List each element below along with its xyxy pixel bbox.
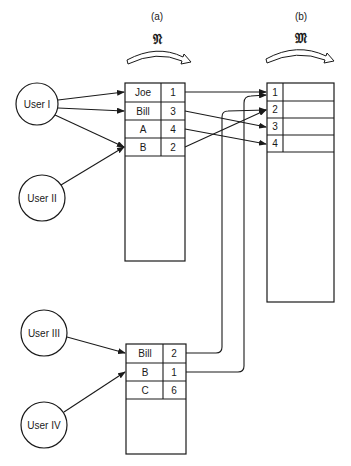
index-cell: 2 [170,142,176,153]
mapping-edges [185,92,266,372]
curved-arrow-icon [266,50,334,63]
user-edges [55,92,125,412]
user-node-4: User IV [21,402,67,448]
object-index-cell: 2 [272,104,278,115]
object-index-cell: 1 [272,87,278,98]
name-cell: Joe [135,87,152,98]
user-label: User III [28,328,60,339]
object-table: 1 2 3 4 [267,83,334,302]
mapping-b-header: (b) 𝔐 [266,11,334,63]
index-cell: 6 [171,385,177,396]
user-label: User II [27,193,56,204]
user-node-2: User II [19,175,65,221]
mapping-a-label: (a) [151,11,163,22]
index-cell: 2 [171,348,177,359]
name-table-upper: Joe 1 Bill 3 A 4 B 2 [125,83,185,261]
user-node-3: User III [21,310,67,356]
name-table-lower: Bill 2 B 1 C 6 [126,344,186,454]
name-cell: C [141,385,148,396]
index-cell: 1 [170,87,176,98]
name-cell: A [140,124,147,135]
index-cell: 4 [170,124,176,135]
object-index-cell: 3 [272,121,278,132]
mapping-b-label: (b) [295,11,307,22]
name-cell: Bill [138,348,151,359]
index-cell: 1 [171,367,177,378]
name-cell: Bill [136,106,149,117]
object-index-cell: 4 [272,138,278,149]
name-cell: B [142,367,149,378]
diagram-canvas: (a) 𝔑 (b) 𝔐 Joe 1 Bill 3 A 4 B 2 [0,0,351,466]
user-label: User I [24,99,51,110]
user-node-1: User I [16,83,58,125]
mapping-a-header: (a) 𝔑 [127,11,191,64]
mapping-b-symbol: 𝔐 [295,31,308,46]
curved-arrow-icon [127,51,191,64]
mapping-a-symbol: 𝔑 [153,32,163,47]
name-cell: B [140,142,147,153]
index-cell: 3 [170,106,176,117]
user-label: User IV [27,420,61,431]
